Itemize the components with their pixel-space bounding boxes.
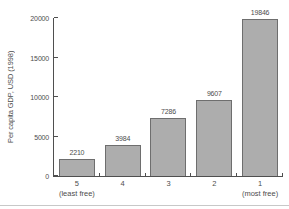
x-category-number: 5 [59,179,95,189]
category-slot: 72863 [146,18,192,176]
bar [242,19,278,176]
y-tick-label: 5000 [34,133,49,140]
y-tick-label: 0 [45,173,49,180]
y-tick-mark [54,17,58,18]
x-tick-mark [99,173,100,176]
category-slot: 39844 [100,18,146,176]
y-tick-label: 10 000 [30,94,49,101]
x-category-label: 5(least free) [59,179,95,199]
bar [150,118,186,176]
x-category-label: 2 [212,179,216,189]
bar-value-label: 9607 [207,90,222,97]
bar [59,159,95,176]
x-category-number: 3 [166,179,170,189]
y-tick-label: 20 000 [30,15,49,22]
bar-value-label: 7286 [161,108,176,115]
x-tick-mark [190,173,191,176]
bar-value-label: 19846 [251,9,269,16]
bar-value-label: 2210 [70,149,85,156]
category-slot: 198461(most free) [237,18,283,176]
y-tick-label: 15 000 [30,54,49,61]
y-tick-mark [54,136,58,137]
bar-chart-figure: Per capita GDP, USD (1998) 22105(least f… [0,0,289,209]
x-category-number: 2 [212,179,216,189]
x-tick-mark [282,173,283,176]
x-category-number: 4 [121,179,125,189]
x-category-label: 1(most free) [242,179,278,199]
bar [105,145,141,176]
bar [196,100,232,176]
x-tick-mark [236,173,237,176]
category-slot: 22105(least free) [54,18,100,176]
y-tick-mark [54,57,58,58]
x-category-label: 3 [166,179,170,189]
figure-bottom-rule [0,205,289,206]
y-tick-mark [54,175,58,176]
x-category-number: 1 [242,179,278,189]
x-category-sublabel: (least free) [59,189,95,199]
y-axis-title: Per capita GDP, USD (1998) [4,18,16,176]
bars-container: 22105(least free)398447286396072198461(m… [54,18,283,176]
plot-area: 22105(least free)398447286396072198461(m… [53,18,283,177]
bar-value-label: 3984 [115,135,130,142]
x-tick-mark [145,173,146,176]
x-category-sublabel: (most free) [242,189,278,199]
x-category-label: 4 [121,179,125,189]
y-tick-mark [54,96,58,97]
category-slot: 96072 [191,18,237,176]
